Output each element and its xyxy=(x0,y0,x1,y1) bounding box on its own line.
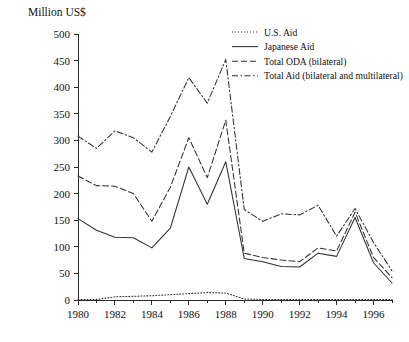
legend-label-2: Total ODA (bilateral) xyxy=(264,56,346,68)
line-chart-plot: 050100150200250300350400450500 198019821… xyxy=(0,0,409,342)
x-tick-label: 1988 xyxy=(215,308,238,320)
x-tick-label: 1980 xyxy=(67,308,90,320)
y-tick-label: 400 xyxy=(54,81,71,93)
y-tick-label: 0 xyxy=(65,294,71,306)
y-tick-label: 500 xyxy=(54,28,71,40)
y-tick-label: 200 xyxy=(54,188,71,200)
chart-figure: Million US$ 0501001502002503003504004505… xyxy=(0,0,409,342)
x-tick-label: 1996 xyxy=(363,308,386,320)
series-lines xyxy=(78,60,392,300)
legend-label-3: Total Aid (bilateral and multilateral) xyxy=(264,70,403,82)
series-line-2 xyxy=(78,120,392,277)
series-line-1 xyxy=(78,162,392,283)
x-tick-label: 1986 xyxy=(178,308,201,320)
y-tick-label: 50 xyxy=(59,267,71,279)
x-tick-label: 1990 xyxy=(252,308,275,320)
x-tick-label: 1982 xyxy=(104,308,126,320)
series-line-0 xyxy=(78,293,392,300)
y-tick-label: 350 xyxy=(54,108,71,120)
y-tick-label: 100 xyxy=(54,241,71,253)
y-tick-label: 300 xyxy=(54,134,71,146)
y-tick-label: 250 xyxy=(54,161,71,173)
y-axis-ticks: 050100150200250300350400450500 xyxy=(54,28,79,306)
legend-label-1: Japanese Aid xyxy=(264,41,315,52)
chart-legend: U.S. AidJapanese AidTotal ODA (bilateral… xyxy=(232,27,403,83)
x-tick-label: 1984 xyxy=(141,308,164,320)
x-axis-ticks: 198019821984198619881990199219941996 xyxy=(67,300,392,320)
legend-label-0: U.S. Aid xyxy=(264,27,298,38)
y-tick-label: 150 xyxy=(54,214,71,226)
x-tick-label: 1992 xyxy=(289,308,311,320)
x-tick-label: 1994 xyxy=(326,308,349,320)
y-tick-label: 450 xyxy=(54,55,71,67)
